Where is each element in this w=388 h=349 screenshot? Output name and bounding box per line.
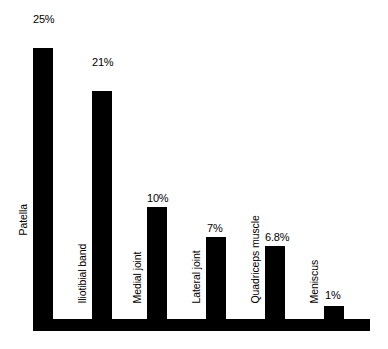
- axis-baseline: [33, 319, 370, 331]
- bar-value-patella: 25%: [33, 14, 54, 25]
- bar-meniscus: [324, 306, 344, 319]
- bar-category-quadriceps-muscle: Quadriceps muscle: [250, 215, 261, 303]
- bar-value-meniscus: 1%: [325, 290, 341, 301]
- bar-patella: [33, 48, 53, 319]
- bar-value-quadriceps-muscle: 6.8%: [265, 232, 289, 243]
- bar-category-lateral-joint: Lateral joint: [191, 251, 202, 304]
- bar-iliotibial-band: [92, 91, 112, 319]
- bar-value-lateral-joint: 7%: [207, 223, 223, 234]
- bar-chart: 25% 21% 10% 7% 6.8% 1% Patella Iliotibia…: [0, 0, 388, 349]
- bar-value-iliotibial-band: 21%: [92, 57, 113, 68]
- bar-category-meniscus: Meniscus: [309, 260, 320, 304]
- bar-category-iliotibial-band: Iliotibial band: [77, 244, 88, 304]
- bar-quadriceps-muscle: [265, 246, 285, 319]
- bar-category-patella: Patella: [18, 204, 29, 235]
- bar-category-medial-joint: Medial joint: [132, 252, 143, 304]
- bar-medial-joint: [147, 207, 167, 319]
- plot-area: 25% 21% 10% 7% 6.8% 1% Patella Iliotibia…: [0, 0, 388, 349]
- bar-lateral-joint: [206, 237, 226, 319]
- bar-value-medial-joint: 10%: [147, 193, 168, 204]
